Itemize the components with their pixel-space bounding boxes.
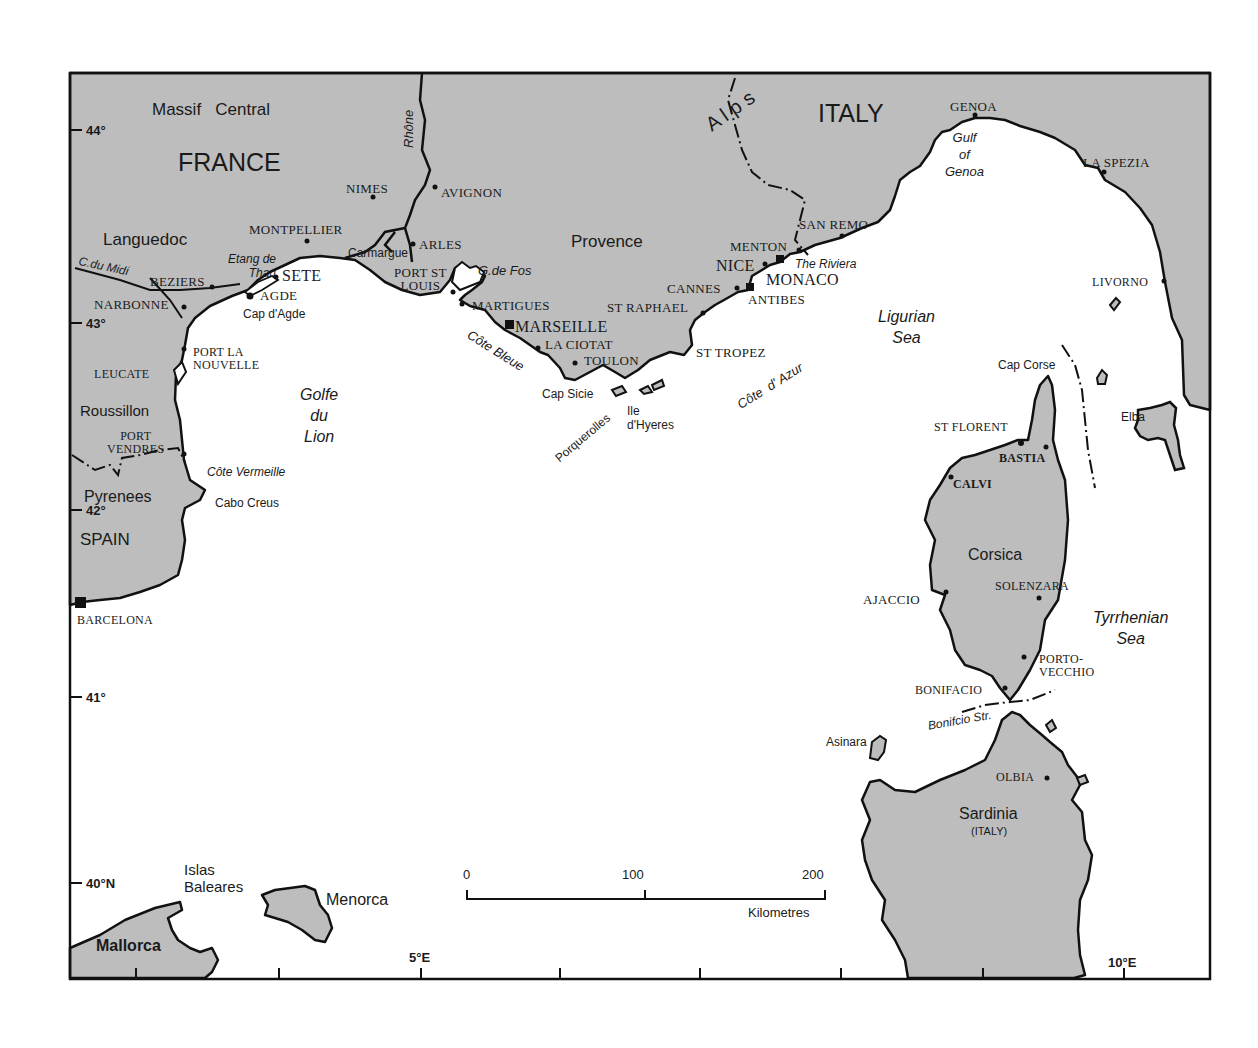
label-menorca: Menorca bbox=[326, 892, 388, 908]
label-menton: MENTON bbox=[730, 240, 787, 253]
lat-label-40: 40°N bbox=[86, 877, 115, 890]
label-ligurian-sea: Ligurian Sea bbox=[878, 307, 935, 349]
scale-label-100: 100 bbox=[622, 868, 644, 881]
label-livorno: LIVORNO bbox=[1092, 276, 1148, 288]
marseille-marker bbox=[505, 320, 514, 329]
label-cote-vermeille: Côte Vermeille bbox=[207, 466, 285, 478]
label-port-vendres: PORT VENDRES bbox=[107, 430, 164, 456]
label-ile-dhyeres: Ile d'Hyeres bbox=[627, 404, 674, 433]
label-la-spezia: LA SPEZIA bbox=[1083, 156, 1150, 169]
label-calvi: CALVI bbox=[953, 478, 992, 490]
label-antibes: ANTIBES bbox=[748, 293, 805, 306]
antibes-marker bbox=[746, 283, 754, 291]
scale-label-0: 0 bbox=[463, 868, 470, 881]
label-nimes: NIMES bbox=[346, 182, 388, 195]
label-monaco: MONACO bbox=[766, 272, 839, 288]
label-tyrrhenian-sea: Tyrrhenian Sea bbox=[1093, 608, 1168, 650]
label-porto-vecchio: PORTO- VECCHIO bbox=[1039, 653, 1094, 679]
label-cap-dagde: Cap d'Agde bbox=[243, 308, 305, 320]
label-st-raphael: ST RAPHAEL bbox=[607, 301, 688, 314]
label-avignon: AVIGNON bbox=[441, 186, 502, 199]
label-cap-corse: Cap Corse bbox=[998, 359, 1055, 371]
label-beziers: BEZIERS bbox=[150, 275, 205, 288]
label-toulon: TOULON bbox=[584, 354, 639, 367]
label-bastia: BASTIA bbox=[999, 452, 1045, 464]
lat-label-41: 41° bbox=[86, 691, 106, 704]
label-port-st-louis: PORT ST LOUIS bbox=[394, 266, 447, 292]
scale-label-200: 200 bbox=[802, 868, 824, 881]
label-port-la-nouvelle: PORT LA NOUVELLE bbox=[193, 346, 259, 372]
label-solenzara: SOLENZARA bbox=[995, 580, 1069, 592]
label-languedoc: Languedoc bbox=[103, 231, 187, 248]
label-corsica: Corsica bbox=[968, 547, 1022, 563]
label-st-florent: ST FLORENT bbox=[934, 421, 1008, 433]
label-nice: NICE bbox=[716, 258, 755, 274]
long-label-5e: 5°E bbox=[409, 951, 430, 964]
lat-label-43: 43° bbox=[86, 317, 106, 330]
label-cap-sicie: Cap Sicie bbox=[542, 388, 593, 400]
label-narbonne: NARBONNE bbox=[94, 298, 169, 311]
label-marseille: MARSEILLE bbox=[515, 319, 607, 335]
label-arles: ARLES bbox=[419, 238, 462, 251]
label-rhone: Rhône bbox=[402, 110, 415, 148]
label-asinara: Asinara bbox=[826, 736, 867, 748]
label-massif-central: Massif Central bbox=[152, 101, 270, 118]
label-italy: ITALY bbox=[818, 101, 884, 126]
lat-label-44: 44° bbox=[86, 124, 106, 137]
label-provence: Provence bbox=[571, 233, 643, 250]
label-agde: AGDE bbox=[260, 289, 297, 302]
label-the-riviera: The Riviera bbox=[795, 258, 856, 270]
label-olbia: OLBIA bbox=[996, 771, 1034, 783]
label-sete: SETE bbox=[282, 268, 321, 284]
label-genoa: GENOA bbox=[950, 100, 997, 113]
label-islas-baleares: Islas Baleares bbox=[184, 862, 243, 895]
label-roussillon: Roussillon bbox=[80, 403, 149, 418]
label-sardinia: Sardinia bbox=[959, 806, 1018, 822]
label-cabo-creus: Cabo Creus bbox=[215, 497, 279, 509]
label-elba: Elba bbox=[1121, 411, 1145, 423]
label-etang-de-thau: Etang de Thau bbox=[228, 252, 276, 281]
label-bonifacio: BONIFACIO bbox=[915, 684, 982, 696]
monaco-marker bbox=[776, 255, 784, 263]
label-carmargue: Carmargue bbox=[348, 247, 408, 259]
label-leucate: LEUCATE bbox=[94, 368, 149, 380]
label-barcelona: BARCELONA bbox=[77, 614, 153, 626]
label-gulf-of-genoa: Gulf of Genoa bbox=[945, 130, 984, 181]
label-cannes: CANNES bbox=[667, 282, 721, 295]
label-san-remo: SAN REMO bbox=[799, 218, 868, 231]
label-sardinia-country: (ITALY) bbox=[971, 826, 1007, 837]
label-martigues: MARTIGUES bbox=[472, 299, 550, 312]
label-mallorca: Mallorca bbox=[96, 938, 161, 954]
label-la-ciotat: LA CIOTAT bbox=[545, 338, 613, 351]
label-g-de-fos: G.de Fos bbox=[478, 264, 531, 277]
lat-label-42: 42° bbox=[86, 504, 106, 517]
label-montpellier: MONTPELLIER bbox=[249, 223, 343, 236]
label-st-tropez: ST TROPEZ bbox=[696, 346, 766, 359]
label-golfe-du-lion: Golfe du Lion bbox=[300, 385, 338, 447]
label-spain: SPAIN bbox=[80, 531, 130, 548]
scale-unit-label: Kilometres bbox=[748, 906, 809, 919]
barcelona-marker bbox=[75, 597, 86, 608]
label-france: FRANCE bbox=[178, 150, 281, 175]
label-ajaccio: AJACCIO bbox=[863, 593, 920, 606]
long-label-10e: 10°E bbox=[1108, 956, 1136, 969]
